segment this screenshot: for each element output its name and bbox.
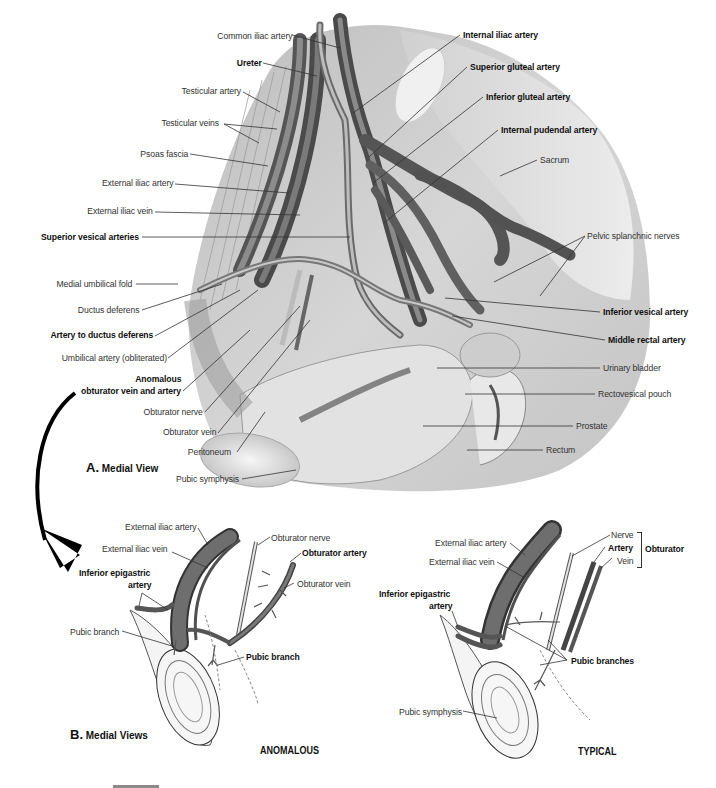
label-rectum: Rectum bbox=[546, 444, 575, 455]
panel-a-title-text: Medial View bbox=[102, 463, 159, 474]
panel-a-title: A. Medial View bbox=[86, 460, 158, 475]
label-b-typ-external-iliac-vein: External iliac vein bbox=[429, 556, 494, 567]
label-b-anom-obturator-artery: Obturator artery bbox=[302, 547, 367, 558]
label-internal-iliac-artery: Internal iliac artery bbox=[463, 29, 538, 40]
label-middle-rectal-artery: Middle rectal artery bbox=[608, 334, 685, 345]
label-b-anom-pubic-branch-right: Pubic branch bbox=[246, 651, 300, 662]
label-inferior-vesical-artery: Inferior vesical artery bbox=[603, 306, 688, 317]
label-obturator-nerve: Obturator nerve bbox=[144, 406, 203, 417]
label-testicular-veins: Testicular veins bbox=[161, 117, 219, 128]
label-pubic-symphysis: Pubic symphysis bbox=[176, 473, 239, 484]
panel-b-title-text: Medial Views bbox=[86, 730, 148, 741]
label-b-typ-inferior-epigastric-line1: Inferior epigastric bbox=[379, 588, 450, 599]
label-b-typ-pubic-branches: Pubic branches bbox=[571, 655, 634, 666]
label-urinary-bladder: Urinary bladder bbox=[603, 362, 661, 373]
label-anomalous-line1: Anomalous bbox=[135, 373, 181, 384]
label-artery-to-ductus-deferens: Artery to ductus deferens bbox=[50, 329, 153, 340]
label-b-anom-obturator-vein: Obturator vein bbox=[297, 578, 350, 589]
label-external-iliac-vein: External iliac vein bbox=[88, 205, 153, 216]
label-ureter: Ureter bbox=[237, 57, 262, 68]
label-sacrum: Sacrum bbox=[540, 154, 569, 165]
label-internal-pudendal-artery: Internal pudendal artery bbox=[501, 124, 597, 135]
label-pelvic-splanchnic-nerves: Pelvic splanchnic nerves bbox=[587, 230, 679, 241]
label-b-typ-obturator: Obturator bbox=[645, 543, 684, 554]
label-external-iliac-artery: External iliac artery bbox=[101, 177, 173, 188]
label-b-anom-external-iliac-vein: External iliac vein bbox=[102, 543, 167, 554]
label-umbilical-artery-obliterated: Umbilical artery (obliterated) bbox=[62, 352, 167, 363]
label-b-typ-external-iliac-artery: External iliac artery bbox=[435, 537, 507, 548]
label-testicular-artery: Testicular artery bbox=[182, 85, 241, 96]
label-b-typ-artery: Artery bbox=[608, 542, 633, 553]
label-b-anom-inferior-epigastric-line1: Inferior epigastric bbox=[79, 567, 150, 578]
anatomy-figure: Common iliac artery Ureter Testicular ar… bbox=[0, 0, 716, 788]
label-inferior-gluteal-artery: Inferior gluteal artery bbox=[486, 91, 570, 102]
label-obturator-vein: Obturator vein bbox=[163, 426, 216, 437]
obturator-bracket bbox=[637, 532, 642, 568]
label-b-anom-pubic-branch-left: Pubic branch bbox=[70, 626, 119, 637]
arrow-curve bbox=[37, 393, 75, 540]
label-ductus-deferens: Ductus deferens bbox=[77, 304, 139, 315]
panel-b-title: B. Medial Views bbox=[70, 727, 148, 742]
label-peritoneum: Peritoneum bbox=[188, 446, 231, 457]
label-anomalous-line2: obturator vein and artery bbox=[81, 385, 181, 396]
label-superior-gluteal-artery: Superior gluteal artery bbox=[470, 61, 560, 72]
label-b-typ-vein: Vein bbox=[617, 555, 633, 566]
label-common-iliac-artery: Common iliac artery bbox=[217, 30, 292, 41]
label-b-anom-external-iliac-artery: External iliac artery bbox=[125, 521, 197, 532]
label-superior-vesical-arteries: Superior vesical arteries bbox=[41, 231, 139, 242]
label-b-typ-pubic-symphysis: Pubic symphysis bbox=[399, 706, 462, 717]
panel-a-letter: A. bbox=[86, 460, 99, 475]
label-psoas-fascia: Psoas fascia bbox=[140, 148, 188, 159]
label-rectovesical-pouch: Rectovesical pouch bbox=[598, 388, 671, 399]
panel-b-anomalous-art bbox=[130, 537, 293, 754]
arrow-head-icon bbox=[40, 528, 82, 572]
label-b-typ-inferior-epigastric-line2: artery bbox=[429, 600, 452, 611]
label-prostate: Prostate bbox=[576, 420, 607, 431]
label-b-anom-inferior-epigastric-line2: artery bbox=[128, 579, 151, 590]
tag-anomalous: ANOMALOUS bbox=[260, 745, 319, 756]
tag-typical: TYPICAL bbox=[578, 746, 617, 757]
panel-b-letter: B. bbox=[70, 727, 83, 742]
label-medial-umbilical-fold: Medial umbilical fold bbox=[56, 278, 132, 289]
label-b-anom-obturator-nerve: Obturator nerve bbox=[271, 532, 330, 543]
label-b-typ-nerve: Nerve bbox=[611, 529, 634, 540]
